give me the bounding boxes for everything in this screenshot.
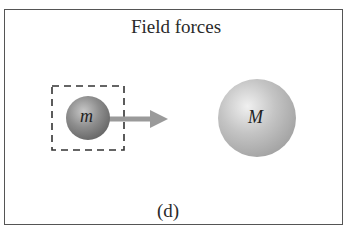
- figure-caption: (d): [0, 200, 336, 222]
- small-mass-label: m: [80, 106, 93, 127]
- force-arrow-head: [150, 110, 168, 128]
- large-mass-label: M: [248, 107, 263, 128]
